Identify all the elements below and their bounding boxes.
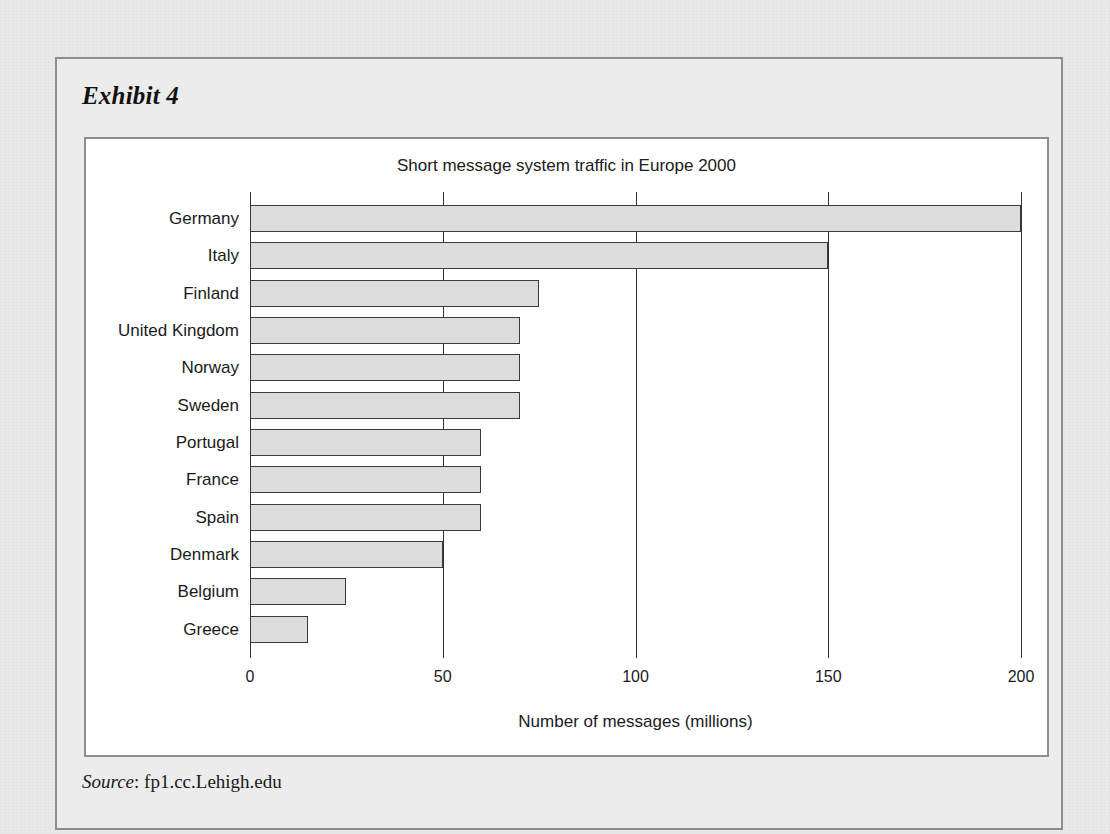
x-tick-label: 0 [246,668,255,686]
y-axis-label: Finland [183,275,239,312]
chart-title: Short message system traffic in Europe 2… [86,156,1047,176]
bar-row: Norway [250,349,1021,386]
bar-row: France [250,461,1021,498]
bar-row: Finland [250,275,1021,312]
bar-row: Sweden [250,387,1021,424]
exhibit-title: Exhibit 4 [82,82,179,110]
x-tick-label: 200 [1008,668,1035,686]
y-axis-label: Denmark [170,536,239,573]
bar [250,317,520,344]
source-separator: : [134,771,144,792]
source-line: Source: fp1.cc.Lehigh.edu [82,771,282,793]
bar [250,280,539,307]
y-axis-label: Germany [169,200,239,237]
x-tick-label: 150 [815,668,842,686]
bar [250,578,346,605]
y-axis-label: Greece [183,611,239,648]
x-axis-title: Number of messages (millions) [250,712,1021,732]
exhibit-frame: Exhibit 4 Short message system traffic i… [55,57,1063,830]
source-value: fp1.cc.Lehigh.edu [144,771,282,792]
y-axis-label: United Kingdom [118,312,239,349]
bar [250,392,520,419]
chart-panel: Short message system traffic in Europe 2… [84,137,1049,757]
bar-row: Denmark [250,536,1021,573]
bar-row: Portugal [250,424,1021,461]
bar [250,541,443,568]
gridline-200 [1021,192,1022,658]
y-axis-label: Portugal [176,424,239,461]
bar [250,466,481,493]
bar [250,205,1021,232]
x-tick-label: 50 [434,668,452,686]
plot-area: Number of messages (millions) 0501001502… [250,200,1021,648]
y-axis-label: Norway [181,349,239,386]
bar-row: United Kingdom [250,312,1021,349]
x-tick-label: 100 [622,668,649,686]
bar-row: Italy [250,237,1021,274]
bar [250,429,481,456]
bar-row: Germany [250,200,1021,237]
bar [250,354,520,381]
y-axis-label: France [186,461,239,498]
y-axis-label: Spain [196,499,239,536]
y-axis-label: Italy [208,237,239,274]
bar [250,242,828,269]
source-label: Source [82,771,134,792]
bar-row: Belgium [250,573,1021,610]
bar [250,504,481,531]
bar-row: Spain [250,499,1021,536]
bar-row: Greece [250,611,1021,648]
bar [250,616,308,643]
y-axis-label: Belgium [178,573,239,610]
y-axis-label: Sweden [178,387,239,424]
